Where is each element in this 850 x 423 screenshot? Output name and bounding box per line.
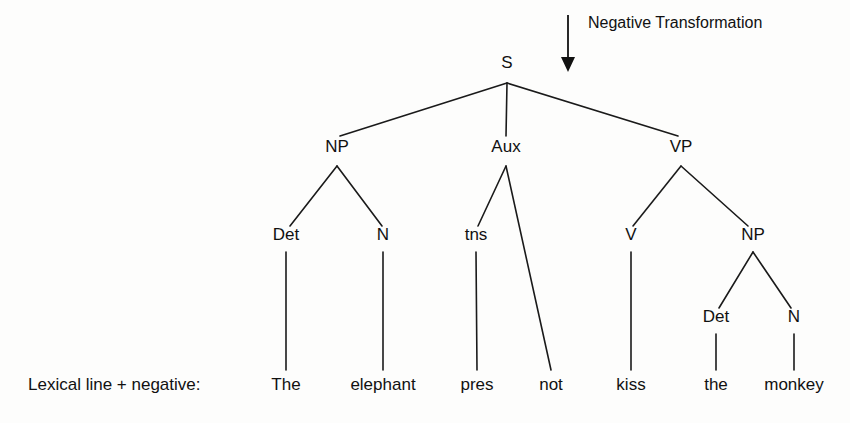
tree-node-vp: VP <box>670 137 693 156</box>
tree-edge-vp-to-np2 <box>681 166 748 226</box>
tree-edge-np2-to-det2 <box>719 252 753 308</box>
tree-edge-np2-to-n2 <box>753 252 791 308</box>
lexical-line-label: Lexical line + negative: <box>28 375 200 394</box>
tree-node-np1: NP <box>325 137 349 156</box>
negative-transformation-arrow <box>561 15 575 72</box>
tree-edge-aux-to-tns <box>478 166 506 226</box>
tree-node-s: S <box>501 53 512 72</box>
tree-node-det1: Det <box>273 225 300 244</box>
negative-transformation-label: Negative Transformation <box>588 14 762 31</box>
terminal-word-w_eleph: elephant <box>350 375 416 394</box>
tree-edge-tns-to-w_pres <box>476 252 477 370</box>
tree-edge-s-to-aux <box>506 83 507 136</box>
tree-node-det2: Det <box>703 307 730 326</box>
syntax-tree-figure: Negative Transformation Lexical line + n… <box>0 0 850 423</box>
terminal-word-w_not: not <box>539 375 563 394</box>
terminal-word-w_the2: the <box>704 375 728 394</box>
tree-edge-np1-to-det1 <box>290 166 337 226</box>
tree-edge-aux-to-w_not <box>506 166 551 370</box>
tree-node-aux: Aux <box>491 137 521 156</box>
terminal-word-w_the1: The <box>271 375 300 394</box>
tree-nodes: SNPAuxVPDetNtnsVNPDetNTheelephantpresnot… <box>271 53 824 394</box>
down-arrow-head <box>561 57 575 72</box>
tree-node-n2: N <box>788 307 800 326</box>
terminal-word-w_kiss: kiss <box>616 375 645 394</box>
tree-edge-vp-to-v <box>633 166 681 226</box>
tree-edge-s-to-np1 <box>340 83 507 136</box>
tree-node-tns: tns <box>465 225 488 244</box>
terminal-word-w_pres: pres <box>460 375 493 394</box>
tree-node-v: V <box>625 225 637 244</box>
tree-node-n1: N <box>377 225 389 244</box>
tree-edge-np1-to-n1 <box>337 166 382 226</box>
tree-edges <box>286 83 794 370</box>
tree-canvas: Negative Transformation Lexical line + n… <box>0 0 850 423</box>
tree-edge-s-to-vp <box>507 83 678 136</box>
terminal-word-w_monkey: monkey <box>764 375 824 394</box>
tree-node-np2: NP <box>741 225 765 244</box>
